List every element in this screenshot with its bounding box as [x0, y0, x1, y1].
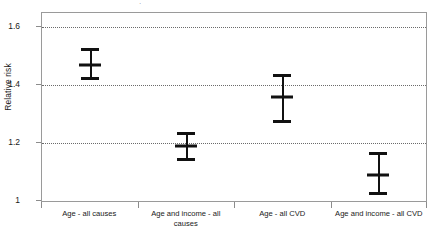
cropped-title-remnant: ·	[139, 0, 141, 5]
error-bar-upper-cap	[177, 132, 195, 135]
x-tick-mark-0	[41, 202, 42, 208]
gridline-1-4	[42, 85, 426, 86]
error-bar-lower-cap	[81, 77, 99, 80]
error-bar-lower-cap	[369, 192, 387, 195]
gridline-1-6	[42, 143, 426, 144]
x-category-label-age-and-income-all-cvd: Age and income - all CVD	[331, 209, 428, 236]
y-tick-label-1-6: 1.6	[0, 21, 20, 31]
x-tick-mark-4	[426, 202, 427, 208]
y-tick-label-1: 1	[0, 195, 20, 205]
error-bar-mean-marker	[271, 95, 293, 98]
error-bar-mean-marker	[367, 173, 389, 176]
x-category-label-age-and-income-all-causes: Age and income - all causes	[138, 209, 235, 236]
gridline-1-2	[42, 27, 426, 28]
y-tick-label-1-4: 1.4	[0, 79, 20, 89]
x-tick-mark-2	[234, 202, 235, 208]
x-axis-category-labels: Age - all causes Age and income - all ca…	[41, 209, 427, 236]
error-bar-upper-cap	[273, 74, 291, 77]
error-bar-upper-cap	[81, 48, 99, 51]
error-bar-mean-marker	[175, 145, 197, 148]
error-bar-lower-cap	[273, 120, 291, 123]
x-category-label-age-all-cvd: Age - all CVD	[234, 209, 331, 236]
x-tick-mark-3	[331, 202, 332, 208]
relative-risk-error-bar-chart: · Relative risk 1 1.2 1.4 1.6	[0, 0, 441, 236]
error-bar-upper-cap	[369, 152, 387, 155]
x-category-label-age-all-causes: Age - all causes	[41, 209, 138, 236]
plot-area	[41, 12, 427, 202]
y-tick-label-1-2: 1.2	[0, 137, 20, 147]
error-bar-mean-marker	[79, 64, 101, 67]
error-bar-lower-cap	[177, 158, 195, 161]
x-tick-mark-1	[138, 202, 139, 208]
